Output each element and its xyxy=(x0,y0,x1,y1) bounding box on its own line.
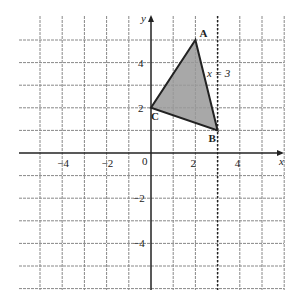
y-tick-label: −4 xyxy=(133,237,145,249)
vertex-label-c: C xyxy=(151,110,159,122)
y-tick-label: 2 xyxy=(138,102,144,114)
x-tick-label: 2 xyxy=(190,157,196,169)
vertex-label-a: A xyxy=(199,27,207,39)
line-label: x = 3 xyxy=(206,67,231,79)
origin-label: 0 xyxy=(142,155,148,167)
y-axis-arrow-icon xyxy=(148,15,154,22)
coordinate-diagram: x y 0 −4−224 42−2−4 ABC x = 3 xyxy=(0,0,299,305)
x-tick-label: −4 xyxy=(57,157,69,169)
x-tick-label: 4 xyxy=(235,157,241,169)
y-axis-label: y xyxy=(140,12,146,24)
vertex-label-b: B xyxy=(209,132,217,144)
x-axis-label: x xyxy=(278,155,284,167)
y-tick-label: −2 xyxy=(133,192,145,204)
y-tick-label: 4 xyxy=(138,57,144,69)
x-tick-label: −2 xyxy=(102,157,114,169)
